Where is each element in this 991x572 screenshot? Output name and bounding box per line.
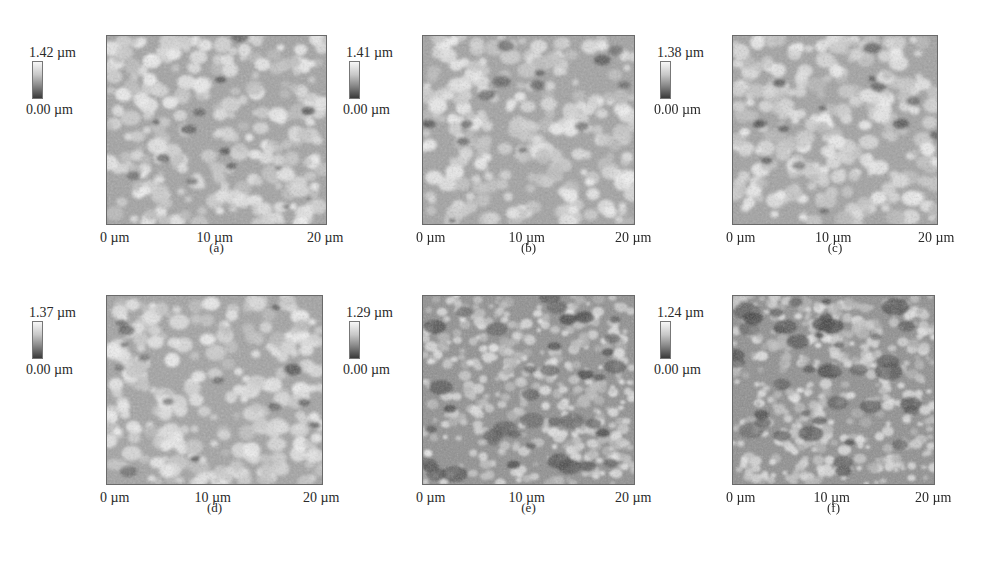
x-tick-right: 20 µm [918,231,954,245]
afm-height-map [732,35,938,225]
x-tick-left: 0 µm [726,231,755,245]
colorbar-min-label: 0.00 µm [26,363,73,377]
colorbar-max-label: 1.41 µm [346,46,393,60]
colorbar-max-label: 1.42 µm [29,46,76,60]
colorbar-max-label: 1.37 µm [29,306,76,320]
colorbar [349,61,360,99]
afm-height-map [106,35,327,225]
panel-caption: (f) [814,500,854,516]
colorbar-min-label: 0.00 µm [654,363,701,377]
colorbar-min-label: 0.00 µm [654,103,701,117]
x-tick-left: 0 µm [100,231,129,245]
x-tick-left: 0 µm [416,491,445,505]
x-tick-right: 20 µm [915,491,951,505]
afm-height-map [422,295,635,485]
colorbar [660,61,671,99]
x-tick-right: 20 µm [615,491,651,505]
colorbar [660,321,671,359]
colorbar-max-label: 1.38 µm [657,46,704,60]
x-tick-right: 20 µm [307,231,343,245]
colorbar [32,321,43,359]
afm-height-map [106,295,323,485]
colorbar-max-label: 1.29 µm [346,306,393,320]
x-tick-left: 0 µm [100,491,129,505]
colorbar-min-label: 0.00 µm [26,103,73,117]
colorbar-min-label: 0.00 µm [343,363,390,377]
panel-caption: (d) [195,500,235,516]
panel-caption: (a) [197,240,237,256]
afm-height-map [422,35,635,225]
colorbar-min-label: 0.00 µm [343,103,390,117]
colorbar [349,321,360,359]
afm-height-map [732,295,935,485]
x-tick-left: 0 µm [416,231,445,245]
x-tick-right: 20 µm [303,491,339,505]
colorbar [32,61,43,99]
colorbar-max-label: 1.24 µm [657,306,704,320]
x-tick-left: 0 µm [726,491,755,505]
panel-caption: (b) [509,240,549,256]
panel-caption: (c) [815,240,855,256]
x-tick-right: 20 µm [615,231,651,245]
panel-caption: (e) [509,500,549,516]
